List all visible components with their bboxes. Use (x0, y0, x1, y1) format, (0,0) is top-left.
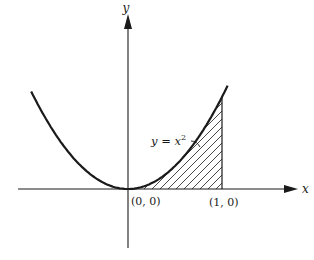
parabola-curve (31, 86, 227, 189)
y-axis-label: y (122, 1, 130, 15)
x-axis-arrow-icon (284, 185, 298, 193)
point-label-origin: (0, 0) (131, 195, 161, 208)
point-label-one: (1, 0) (209, 196, 239, 209)
y-axis-arrow-icon (124, 14, 132, 29)
x-axis-label: x (302, 182, 309, 196)
parabola-area-figure: y x y = x2 (0, 0) (1, 0) (0, 0, 314, 260)
figure-canvas: y x y = x2 (0, 0) (1, 0) (0, 0, 314, 260)
curve-label: y = x2 (150, 133, 186, 148)
